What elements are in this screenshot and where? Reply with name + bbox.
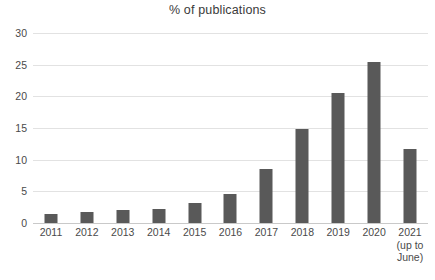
chart-title: % of publications [0, 3, 435, 17]
bar-2019 [332, 93, 345, 223]
x-axis-tick-label: 2021(up toJune) [392, 226, 428, 264]
x-axis-tick-year: 2020 [362, 226, 385, 238]
x-axis-tick-year: 2018 [291, 226, 314, 238]
x-axis-tick-label: 2016 [213, 226, 249, 239]
x-axis-tick-label: 2017 [248, 226, 284, 239]
bar-2012 [80, 212, 93, 223]
bars-layer [33, 33, 428, 223]
y-axis-tick-label: 25 [15, 59, 27, 70]
x-axis-labels: 2011201220132014201520162017201820192020… [33, 226, 428, 280]
x-axis-tick-label: 2020 [356, 226, 392, 239]
bar-slot [248, 33, 284, 223]
bar-2018 [296, 129, 309, 223]
y-axis-tick-label: 15 [15, 123, 27, 134]
x-axis-tick-label: 2013 [105, 226, 141, 239]
x-axis-tick-year: 2012 [75, 226, 98, 238]
x-axis-tick-label: 2012 [69, 226, 105, 239]
x-axis-tick-year: 2015 [183, 226, 206, 238]
x-axis-tick-label: 2011 [33, 226, 69, 239]
bar-slot [69, 33, 105, 223]
x-axis-tick-year: 2017 [255, 226, 278, 238]
x-axis-tick-label: 2019 [320, 226, 356, 239]
x-axis-tick-year: 2013 [111, 226, 134, 238]
bar-slot [320, 33, 356, 223]
x-axis-tick-year: 2014 [147, 226, 170, 238]
bar-2021 [404, 149, 417, 223]
y-axis-tick-label: 10 [15, 154, 27, 165]
bar-2013 [116, 210, 129, 223]
x-axis-tick-label: 2015 [177, 226, 213, 239]
bar-2014 [152, 209, 165, 223]
bar-slot [284, 33, 320, 223]
bar-chart: % of publications 051015202530 201120122… [0, 0, 435, 280]
bar-slot [177, 33, 213, 223]
y-axis-tick-label: 0 [21, 218, 27, 229]
bar-2017 [260, 169, 273, 223]
bar-slot [33, 33, 69, 223]
x-axis-tick-note-line1: (up to [392, 239, 428, 252]
y-axis-tick-label: 5 [21, 186, 27, 197]
x-axis-tick-year: 2019 [327, 226, 350, 238]
x-axis-tick-label: 2014 [141, 226, 177, 239]
bar-slot [213, 33, 249, 223]
bar-2011 [44, 214, 57, 224]
x-axis-tick-label: 2018 [284, 226, 320, 239]
bar-2016 [224, 194, 237, 223]
bar-slot [141, 33, 177, 223]
x-axis-tick-year: 2021 [398, 226, 421, 238]
x-axis-tick-year: 2016 [219, 226, 242, 238]
bar-2020 [368, 62, 381, 223]
bar-slot [105, 33, 141, 223]
bar-slot [356, 33, 392, 223]
gridline-0: 0 [33, 223, 428, 224]
bar-slot [392, 33, 428, 223]
x-axis-tick-year: 2011 [40, 226, 63, 238]
y-axis-tick-label: 20 [15, 91, 27, 102]
x-axis-tick-note-line2: June) [392, 251, 428, 264]
y-axis-tick-label: 30 [15, 28, 27, 39]
bar-2015 [188, 203, 201, 223]
